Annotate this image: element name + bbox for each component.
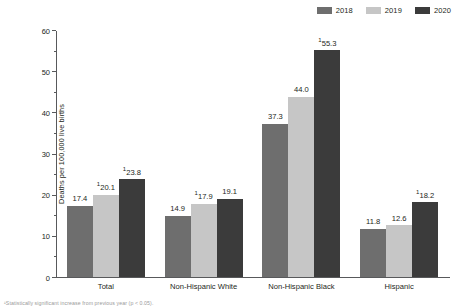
y-tick-minor xyxy=(54,92,57,93)
legend-swatch-2020 xyxy=(415,7,430,14)
significance-marker: 1 xyxy=(318,37,321,43)
y-tick-major xyxy=(52,112,56,113)
y-tick-major xyxy=(52,277,56,278)
bar-value-label: 14.9 xyxy=(170,205,185,213)
y-tick-label: 10 xyxy=(42,233,50,241)
x-category-label: Non-Hispanic White xyxy=(170,283,237,291)
bar-value-label: 12.6 xyxy=(392,215,407,223)
bar-value-label: 155.3 xyxy=(318,40,336,48)
bar-value-label: 117.9 xyxy=(195,193,213,201)
bar-2019[interactable] xyxy=(93,195,119,277)
bar-slot-2019: 12.6 xyxy=(386,31,412,277)
y-tick-label: 30 xyxy=(42,151,50,159)
y-tick-minor xyxy=(54,51,57,52)
bar-slot-2018: 11.8 xyxy=(360,31,386,277)
bar-value-label: 44.0 xyxy=(294,86,309,94)
bar-set: 37.344.0155.3 xyxy=(262,31,340,277)
bar-group: 37.344.0155.3Non-Hispanic Black xyxy=(253,31,351,277)
y-tick-minor xyxy=(54,174,57,175)
legend-label-2020: 2020 xyxy=(434,7,451,15)
x-category-label: Total xyxy=(98,283,114,291)
y-tick-label: 40 xyxy=(42,110,50,118)
x-axis-line xyxy=(56,277,450,278)
bar-slot-2020: 118.2 xyxy=(412,31,438,277)
bar-2019[interactable] xyxy=(288,97,314,277)
bar-group: 11.812.6118.2Hispanic xyxy=(350,31,448,277)
bar-value-label: 11.8 xyxy=(366,218,380,226)
x-category-label: Non-Hispanic Black xyxy=(268,283,334,291)
bar-2019[interactable] xyxy=(191,204,217,277)
bar-value-label: 120.1 xyxy=(97,184,115,192)
chart-footnote: ¹Statistically significant increase from… xyxy=(4,300,153,306)
bar-slot-2019: 120.1 xyxy=(93,31,119,277)
bar-slot-2020: 19.1 xyxy=(217,31,243,277)
legend-swatch-2018 xyxy=(317,7,332,14)
bar-value-label: 118.2 xyxy=(416,192,434,200)
significance-marker: 1 xyxy=(195,191,198,197)
y-tick-label: 20 xyxy=(42,192,50,200)
bar-2020[interactable] xyxy=(412,202,438,277)
y-tick-label: 60 xyxy=(42,27,50,35)
legend-item-2018: 2018 xyxy=(317,7,353,15)
bar-slot-2018: 37.3 xyxy=(262,31,288,277)
significance-marker: 1 xyxy=(416,189,419,195)
bar-slot-2018: 14.9 xyxy=(165,31,191,277)
bar-2019[interactable] xyxy=(386,225,412,277)
bar-set: 17.4120.1123.8 xyxy=(67,31,145,277)
bar-group: 17.4120.1123.8Total xyxy=(57,31,155,277)
significance-marker: 1 xyxy=(97,181,100,187)
y-tick-major xyxy=(52,195,56,196)
bar-value-label: 19.1 xyxy=(222,188,237,196)
legend-item-2019: 2019 xyxy=(366,7,402,15)
y-tick-major xyxy=(52,154,56,155)
y-tick-minor xyxy=(54,256,57,257)
chart-legend: 2018 2019 2020 xyxy=(317,7,451,15)
bar-value-label: 37.3 xyxy=(268,113,283,121)
bar-group: 14.9117.919.1Non-Hispanic White xyxy=(155,31,253,277)
bar-slot-2019: 117.9 xyxy=(191,31,217,277)
bar-value-label: 123.8 xyxy=(123,169,141,177)
bar-slot-2019: 44.0 xyxy=(288,31,314,277)
bar-slot-2018: 17.4 xyxy=(67,31,93,277)
bar-set: 14.9117.919.1 xyxy=(165,31,243,277)
y-tick-label: 50 xyxy=(42,68,50,76)
bar-2018[interactable] xyxy=(360,229,386,277)
bar-2020[interactable] xyxy=(314,50,340,277)
bar-groups: 17.4120.1123.8Total14.9117.919.1Non-Hisp… xyxy=(57,31,448,277)
legend-item-2020: 2020 xyxy=(415,7,451,15)
y-tick-label: 0 xyxy=(46,274,50,282)
bar-set: 11.812.6118.2 xyxy=(360,31,438,277)
legend-label-2018: 2018 xyxy=(336,7,353,15)
bar-2018[interactable] xyxy=(67,206,93,277)
y-tick-minor xyxy=(54,133,57,134)
legend-label-2019: 2019 xyxy=(385,7,402,15)
legend-swatch-2019 xyxy=(366,7,381,14)
bar-value-label: 17.4 xyxy=(72,195,87,203)
y-tick-major xyxy=(52,236,56,237)
plot-area: 0102030405060 17.4120.1123.8Total14.9117… xyxy=(56,31,448,278)
bar-slot-2020: 155.3 xyxy=(314,31,340,277)
bar-2020[interactable] xyxy=(119,179,145,277)
y-tick-minor xyxy=(54,215,57,216)
bar-2020[interactable] xyxy=(217,199,243,277)
y-tick-major xyxy=(52,30,56,31)
bar-2018[interactable] xyxy=(165,216,191,277)
x-category-label: Hispanic xyxy=(385,283,414,291)
bar-slot-2020: 123.8 xyxy=(119,31,145,277)
y-tick-major xyxy=(52,71,56,72)
significance-marker: 1 xyxy=(123,166,126,172)
bar-2018[interactable] xyxy=(262,124,288,277)
